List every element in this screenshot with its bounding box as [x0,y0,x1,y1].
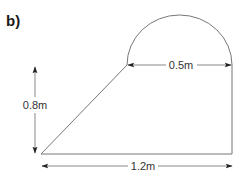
diagram-canvas: 0.8m 0.5m 1.2m [0,0,245,178]
diameter-dimension: 0.5m [128,59,231,71]
trapezium-outline [41,65,232,154]
diameter-label: 0.5m [169,59,193,71]
height-dimension: 0.8m [23,67,47,153]
height-label: 0.8m [23,99,47,111]
semicircle [127,15,232,65]
base-label: 1.2m [131,160,155,172]
base-dimension: 1.2m [42,160,232,172]
